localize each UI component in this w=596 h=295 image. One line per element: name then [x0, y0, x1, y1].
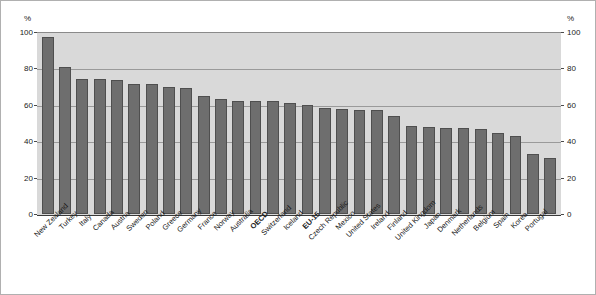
y-tickmark-left-100 [34, 32, 37, 33]
y-tick-right-60: 60 [567, 101, 576, 110]
y-axis-unit-left: % [24, 14, 31, 23]
y-tickmark-right-80 [561, 68, 564, 69]
bars-container [37, 32, 561, 214]
bar-slot [334, 32, 351, 214]
bar-slot [524, 32, 541, 214]
category-slot: Spain [490, 215, 507, 295]
y-tickmark-left-0 [34, 214, 37, 215]
category-slot: Netherlands [455, 215, 472, 295]
bar-slot [386, 32, 403, 214]
category-slot: United States [351, 215, 368, 295]
bar-slot [299, 32, 316, 214]
bar [406, 126, 418, 214]
bar [111, 80, 123, 214]
bar-slot [230, 32, 247, 214]
bar-slot [403, 32, 420, 214]
bar-slot [74, 32, 91, 214]
category-slot: Australia [230, 215, 247, 295]
bar [492, 133, 504, 214]
bar-slot [212, 32, 229, 214]
category-slot: Portugal [524, 215, 541, 295]
bar [544, 158, 556, 214]
bar-slot [178, 32, 195, 214]
bar-slot [195, 32, 212, 214]
bar-slot [91, 32, 108, 214]
bar-slot [56, 32, 73, 214]
bar [371, 110, 383, 214]
category-slot: Sweden [126, 215, 143, 295]
category-slot: Ireland [368, 215, 385, 295]
category-slot: Poland [143, 215, 160, 295]
bar-slot [368, 32, 385, 214]
bar [267, 101, 279, 214]
bar [232, 101, 244, 214]
y-tickmark-right-0 [561, 214, 564, 215]
bar [215, 99, 227, 214]
bar [319, 108, 331, 214]
bar-chart: % % 020406080100 020406080100 New Zealan… [0, 0, 596, 295]
y-tick-left-80: 80 [24, 64, 33, 73]
bar-slot [264, 32, 281, 214]
bar [284, 103, 296, 214]
bar [42, 37, 54, 214]
bar-slot [126, 32, 143, 214]
bar [510, 136, 522, 214]
category-slot: Germany [178, 215, 195, 295]
bar-slot [282, 32, 299, 214]
category-slot: New Zealand [39, 215, 56, 295]
y-tick-right-100: 100 [567, 28, 580, 37]
y-tick-left-0: 0 [29, 210, 33, 219]
y-tickmark-left-20 [34, 178, 37, 179]
bar [128, 84, 140, 214]
bar [440, 128, 452, 214]
bar-slot [316, 32, 333, 214]
y-tickmark-left-60 [34, 105, 37, 106]
category-slot: France [195, 215, 212, 295]
y-tick-left-100: 100 [20, 28, 33, 37]
y-tick-right-0: 0 [567, 210, 571, 219]
category-slot: Turkey [56, 215, 73, 295]
bar [76, 79, 88, 214]
y-tickmark-right-20 [561, 178, 564, 179]
y-axis-unit-right: % [567, 14, 574, 23]
category-slot [542, 215, 559, 295]
bar-slot [542, 32, 559, 214]
bar [527, 154, 539, 214]
bar-slot [247, 32, 264, 214]
category-slot: Iceland [282, 215, 299, 295]
bar-slot [420, 32, 437, 214]
bar-slot [455, 32, 472, 214]
bar [458, 128, 470, 214]
bar-slot [143, 32, 160, 214]
y-tickmark-left-80 [34, 68, 37, 69]
category-slot: Austria [108, 215, 125, 295]
y-tickmark-right-60 [561, 105, 564, 106]
bar-slot [490, 32, 507, 214]
y-tick-right-40: 40 [567, 137, 576, 146]
y-tick-left-20: 20 [24, 174, 33, 183]
bar-slot [351, 32, 368, 214]
bar [388, 116, 400, 214]
bar [94, 79, 106, 214]
bar [163, 87, 175, 214]
category-slot: Korea [507, 215, 524, 295]
bar-slot [160, 32, 177, 214]
y-tick-left-40: 40 [24, 137, 33, 146]
bar [146, 84, 158, 214]
y-tick-right-80: 80 [567, 64, 576, 73]
y-tickmark-right-100 [561, 32, 564, 33]
category-slot: Czech Republic [316, 215, 333, 295]
category-slot: Belgium [472, 215, 489, 295]
bar [59, 67, 71, 214]
bar-slot [438, 32, 455, 214]
category-slot: Switzerland [264, 215, 281, 295]
bar [180, 88, 192, 214]
x-axis-category-labels: New ZealandTurkeyItalyCanadaAustriaSwede… [37, 215, 561, 295]
y-tickmark-left-40 [34, 141, 37, 142]
bar-slot [108, 32, 125, 214]
y-tickmark-right-40 [561, 141, 564, 142]
bar [198, 96, 210, 214]
y-tick-left-60: 60 [24, 101, 33, 110]
bar [354, 110, 366, 214]
category-slot: United Kingdom [403, 215, 420, 295]
